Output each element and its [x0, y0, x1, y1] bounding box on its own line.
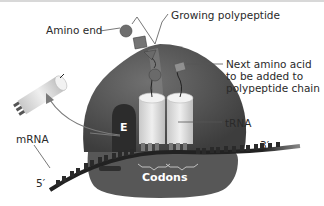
exiting-trna	[13, 74, 70, 118]
label-next-amino-acid: Next amino acid to be added to polypepti…	[226, 58, 320, 94]
label-growing-polypeptide: Growing polypeptide	[171, 9, 280, 21]
label-5-prime: 5′	[36, 177, 45, 189]
label-mrna: mRNA	[16, 133, 49, 145]
trna-p-site	[139, 93, 165, 151]
label-codons: Codons	[142, 171, 187, 184]
label-3-prime: 3′	[260, 139, 269, 151]
label-trna: tRNA	[225, 117, 251, 129]
label-amino-end: Amino end	[46, 24, 103, 36]
label-e-site: E	[120, 121, 128, 134]
